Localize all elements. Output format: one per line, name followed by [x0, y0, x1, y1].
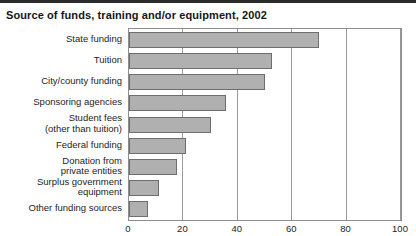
category-label: Federal funding — [56, 140, 122, 150]
category-label: Student fees (other than tuition) — [45, 113, 122, 133]
category-label: State funding — [66, 34, 122, 44]
category-label: Other funding sources — [29, 203, 122, 213]
gridline-60 — [291, 29, 292, 220]
bar — [129, 53, 272, 69]
bar — [129, 138, 186, 154]
category-label: Sponsoring agencies — [33, 97, 122, 107]
top-rule-divider — [0, 0, 416, 3]
x-tick-label: 60 — [286, 223, 297, 234]
x-tick-label: 100 — [392, 223, 408, 234]
gridline-100 — [400, 29, 401, 220]
bar — [129, 201, 148, 217]
bar — [129, 32, 319, 48]
plot-wrapper: State fundingTuitionCity/county fundingS… — [0, 28, 416, 236]
bar — [129, 74, 265, 90]
x-tick-label: 20 — [177, 223, 188, 234]
x-tick-label: 80 — [340, 223, 351, 234]
chart-title: Source of funds, training and/or equipme… — [6, 9, 267, 21]
x-axis-ticks: 020406080100 — [128, 221, 400, 236]
x-tick-label: 40 — [232, 223, 243, 234]
category-label: Donation from private entities — [61, 156, 122, 176]
chart-figure: Source of funds, training and/or equipme… — [0, 0, 416, 236]
category-label: Surplus government equipment — [37, 177, 122, 197]
bar — [129, 117, 211, 133]
plot-area — [128, 28, 402, 221]
bar — [129, 95, 226, 111]
bar — [129, 180, 159, 196]
bar — [129, 159, 177, 175]
category-label: Tuition — [94, 55, 122, 65]
x-tick-label: 0 — [125, 223, 130, 234]
category-label: City/county funding — [41, 76, 122, 86]
gridline-80 — [346, 29, 347, 220]
category-axis-labels: State fundingTuitionCity/county fundingS… — [0, 28, 126, 219]
